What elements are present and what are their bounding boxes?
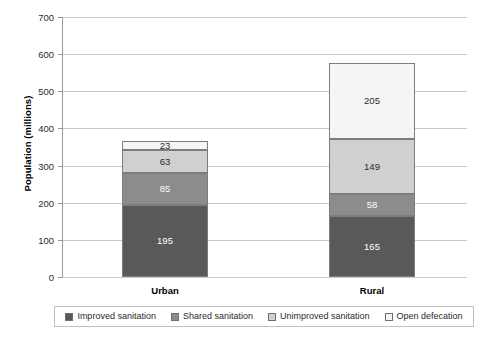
legend-label: Open defecation [397,312,463,321]
bar-segment-value: 85 [160,184,171,194]
y-axis-tick-labels: 0100200300400500600700 [14,17,54,277]
legend-swatch-icon [171,313,179,321]
gridline [62,277,467,278]
y-axis-line [62,17,63,278]
bar-segment[interactable]: 149 [329,139,415,194]
bar-group[interactable]: 195856323 [122,17,208,277]
bar-segment-value: 58 [367,200,378,210]
y-tick-label: 500 [20,86,54,97]
y-tick-label: 700 [20,12,54,23]
y-tick-mark [58,17,62,18]
y-tick-label: 300 [20,160,54,171]
y-tick-mark [58,166,62,167]
category-label: Rural [312,285,432,296]
bar-segment[interactable]: 63 [122,150,208,173]
bar-segment-value: 23 [160,141,171,150]
plot-area: 19585632316558149205 [62,17,467,277]
bar-segment[interactable]: 23 [122,141,208,150]
legend-item[interactable]: Improved sanitation [65,312,156,321]
legend-swatch-icon [385,313,393,321]
y-tick-mark [58,240,62,241]
bar-segment-value: 205 [364,96,380,106]
y-tick-mark [58,91,62,92]
y-tick-mark [58,277,62,278]
bar-group[interactable]: 16558149205 [329,17,415,277]
y-tick-label: 200 [20,197,54,208]
bar-segment[interactable]: 195 [122,205,208,277]
bar-segment-value: 165 [364,242,380,252]
bar-segment[interactable]: 58 [329,194,415,216]
legend-label: Shared sanitation [183,312,253,321]
legend-item[interactable]: Open defecation [385,312,463,321]
bar-segment-value: 149 [364,162,380,172]
legend-label: Improved sanitation [77,312,156,321]
legend-item[interactable]: Shared sanitation [171,312,253,321]
y-tick-label: 400 [20,123,54,134]
y-tick-label: 100 [20,234,54,245]
y-tick-mark [58,128,62,129]
bar-segment[interactable]: 205 [329,63,415,139]
bar-segment[interactable]: 165 [329,216,415,277]
bar-segment-value: 63 [160,157,171,167]
chart-legend: Improved sanitationShared sanitationUnim… [54,306,474,327]
y-tick-label: 0 [20,272,54,283]
legend-swatch-icon [268,313,276,321]
legend-item[interactable]: Unimproved sanitation [268,312,370,321]
bar-segment[interactable]: 85 [122,173,208,205]
legend-swatch-icon [65,313,73,321]
y-tick-label: 600 [20,49,54,60]
y-tick-mark [58,203,62,204]
legend-label: Unimproved sanitation [280,312,370,321]
bar-segment-value: 195 [157,236,173,246]
y-tick-mark [58,54,62,55]
stacked-bar-chart: Population (millions) 010020030040050060… [0,0,479,337]
category-label: Urban [105,285,225,296]
